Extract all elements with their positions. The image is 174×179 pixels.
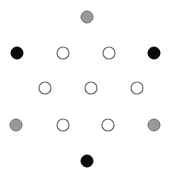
gray-circle-node [148, 119, 160, 131]
dot-pattern-diagram [0, 0, 174, 179]
gray-circle-node [81, 11, 93, 23]
gray-circle-node [10, 119, 22, 131]
white-circle-node [85, 82, 97, 94]
black-circle-node [81, 155, 93, 167]
diagram-svg [0, 0, 174, 179]
white-circle-node [131, 82, 143, 94]
white-circle-node [102, 119, 114, 131]
white-circle-node [57, 119, 69, 131]
black-circle-node [11, 47, 23, 59]
white-circle-node [39, 82, 51, 94]
white-circle-node [57, 47, 69, 59]
white-circle-node [103, 47, 115, 59]
black-circle-node [148, 47, 160, 59]
